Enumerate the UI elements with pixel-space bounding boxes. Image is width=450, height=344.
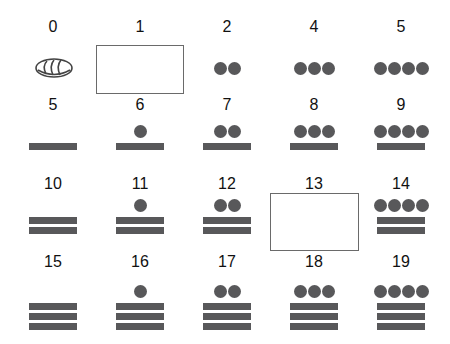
bar-icon [377,313,425,320]
bar-icon [203,313,251,320]
numeral-label: 17 [183,253,271,271]
dot-icon [134,285,147,298]
numeral-glyph [9,285,97,330]
bar-icon [116,303,164,310]
numeral-label: 15 [9,253,97,271]
numeral-label: 18 [270,253,358,271]
bar-icon [290,313,338,320]
dot-icon [214,285,227,298]
bar-icon [377,303,425,310]
numeral-label: 16 [96,253,184,271]
numeral-cell-18: 18 [270,0,358,330]
bar-icon [29,303,77,310]
bar-icon [29,313,77,320]
dot-icon [228,285,241,298]
dot-icon [374,285,387,298]
bar-icon [203,303,251,310]
dot-icon [416,285,429,298]
bar-icon [116,323,164,330]
dot-icon [308,285,321,298]
numeral-glyph [357,280,445,330]
numeral-cell-15: 15 [9,0,97,330]
dot-icon [294,285,307,298]
numeral-glyph [96,280,184,330]
numeral-label: 19 [357,253,445,271]
bar-icon [116,313,164,320]
bar-icon [377,323,425,330]
numeral-cell-17: 17 [183,0,271,330]
dot-icon [388,285,401,298]
dot-icon [402,285,415,298]
numeral-glyph [270,280,358,330]
numeral-cell-19: 19 [357,0,445,330]
bar-icon [203,323,251,330]
numeral-glyph [183,280,271,330]
bar-icon [29,323,77,330]
bar-icon [290,303,338,310]
numeral-cell-16: 16 [96,0,184,330]
dot-icon [322,285,335,298]
bar-icon [290,323,338,330]
